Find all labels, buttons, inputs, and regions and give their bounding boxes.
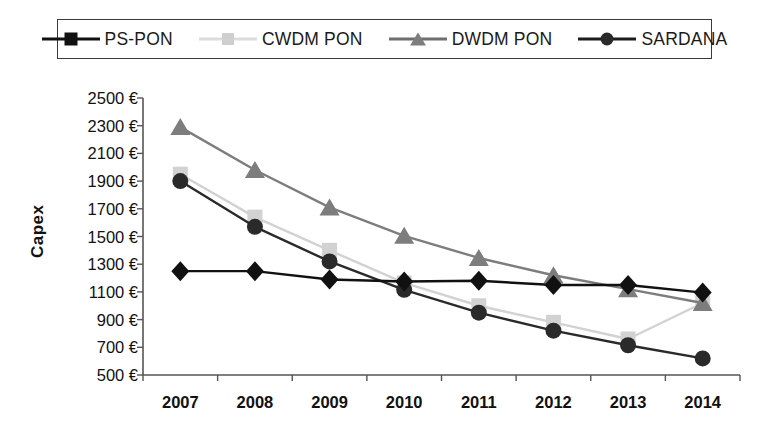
triangle-icon [469, 249, 489, 266]
circle-icon [322, 253, 338, 269]
series-line [180, 174, 702, 339]
legend-label-sardana: SARDANA [641, 29, 727, 50]
triangle-icon [394, 227, 414, 244]
triangle-icon [320, 198, 340, 215]
legend-key-cwdm-pon [199, 30, 257, 48]
diamond-icon [171, 261, 189, 281]
diamond-icon [246, 261, 264, 281]
legend-key-dwdm-pon [389, 30, 447, 48]
legend-item-dwdm-pon[interactable]: DWDM PON [389, 29, 553, 50]
chart-canvas [0, 70, 772, 433]
legend-item-cwdm-pon[interactable]: CWDM PON [199, 29, 363, 50]
legend-label-ps-pon: PS-PON [105, 29, 173, 50]
series-cwdm-pon [173, 167, 710, 347]
circle-icon [695, 350, 711, 366]
legend-item-sardana[interactable]: SARDANA [578, 29, 727, 50]
legend-label-dwdm-pon: DWDM PON [452, 29, 553, 50]
legend-key-ps-pon [42, 30, 100, 48]
legend-key-sardana [578, 30, 636, 48]
triangle-icon [170, 118, 190, 135]
triangle-icon [410, 33, 426, 46]
chart-axes [137, 98, 740, 381]
triangle-icon [245, 161, 265, 178]
circle-icon [620, 337, 636, 353]
diamond-icon [470, 271, 488, 291]
square-icon [222, 33, 234, 45]
capex-line-chart: PS-PON CWDM PON DWDM PON SARDANA [0, 0, 772, 433]
circle-icon [601, 33, 614, 46]
legend-item-ps-pon[interactable]: PS-PON [42, 29, 173, 50]
diamond-icon [321, 269, 339, 289]
diamond-icon [64, 33, 77, 46]
chart-legend: PS-PON CWDM PON DWDM PON SARDANA [57, 19, 712, 59]
plot-area: Capex 500 €700 €900 €1100 €1300 €1500 €1… [0, 70, 772, 433]
legend-label-cwdm-pon: CWDM PON [262, 29, 363, 50]
circle-icon [545, 323, 561, 339]
circle-icon [471, 305, 487, 321]
circle-icon [247, 219, 263, 235]
circle-icon [172, 173, 188, 189]
